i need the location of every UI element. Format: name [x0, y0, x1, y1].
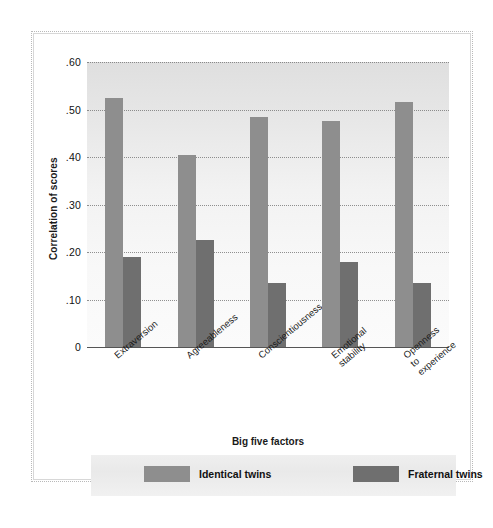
bar-identical-twins [178, 155, 196, 347]
legend-item: Fraternal twins [353, 466, 483, 482]
legend-item: Identical twins [144, 466, 271, 482]
y-tick-label: 0 [75, 341, 81, 353]
y-tick-label: .50 [66, 104, 81, 116]
bar-group [250, 62, 286, 347]
bar-identical-twins [395, 102, 413, 347]
figure-inner-border: Correlation of scores 0.10.20.30.40.50.6… [33, 33, 471, 480]
chart-legend: Identical twinsFraternal twins [91, 455, 456, 496]
legend-label: Fraternal twins [408, 468, 483, 480]
y-tick-label: .60 [66, 56, 81, 68]
bar-group [105, 62, 141, 347]
y-axis-title: Correlation of scores [48, 134, 62, 284]
y-tick-label: .40 [66, 151, 81, 163]
plot-area: 0.10.20.30.40.50.60ExtraversionAgreeable… [87, 62, 449, 347]
y-tick-label: .20 [66, 246, 81, 258]
bar-identical-twins [250, 117, 268, 347]
legend-swatch [353, 466, 399, 482]
y-tick-label: .10 [66, 294, 81, 306]
bar-identical-twins [322, 121, 340, 347]
bar-group [178, 62, 214, 347]
bar-group [322, 62, 358, 347]
bar-identical-twins [105, 98, 123, 347]
figure-frame: Correlation of scores 0.10.20.30.40.50.6… [31, 31, 473, 482]
legend-swatch [144, 466, 190, 482]
x-axis-title: Big five factors [87, 436, 449, 447]
y-tick-label: .30 [66, 199, 81, 211]
bar-chart: Correlation of scores 0.10.20.30.40.50.6… [34, 34, 474, 483]
legend-label: Identical twins [199, 468, 271, 480]
bar-group [395, 62, 431, 347]
